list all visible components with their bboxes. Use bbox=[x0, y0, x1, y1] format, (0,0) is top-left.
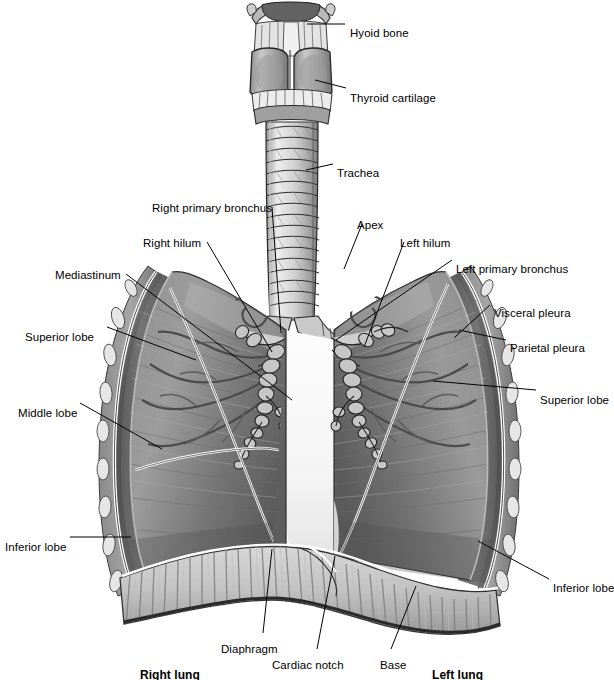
label-apex: Apex bbox=[357, 219, 383, 232]
label-inferior-lobe-right: Inferior lobe bbox=[5, 541, 66, 554]
label-superior-lobe-left: Superior lobe bbox=[540, 394, 609, 407]
label-diaphragm: Diaphragm bbox=[221, 643, 278, 656]
label-middle-lobe: Middle lobe bbox=[18, 407, 77, 420]
respiratory-system-figure: Hyoid boneThyroid cartilageTracheaRight … bbox=[0, 0, 614, 680]
label-left-hilum: Left hilum bbox=[400, 237, 450, 250]
label-mediastinum: Mediastinum bbox=[55, 269, 121, 282]
label-left-lung: Left lung bbox=[432, 669, 483, 680]
label-parietal-pleura: Parietal pleura bbox=[510, 342, 585, 355]
label-cardiac-notch: Cardiac notch bbox=[272, 659, 344, 672]
label-left-primary-bronchus: Left primary bronchus bbox=[456, 263, 568, 276]
label-superior-lobe-right: Superior lobe bbox=[25, 331, 94, 344]
label-trachea: Trachea bbox=[337, 167, 379, 180]
mediastinum-space bbox=[283, 330, 336, 574]
label-inferior-lobe-left: Inferior lobe bbox=[553, 582, 614, 595]
label-visceral-pleura: Visceral pleura bbox=[494, 307, 571, 320]
label-right-hilum: Right hilum bbox=[143, 237, 201, 250]
label-thyroid-cartilage: Thyroid cartilage bbox=[350, 92, 436, 105]
label-hyoid-bone: Hyoid bone bbox=[350, 27, 409, 40]
left-lung bbox=[331, 266, 521, 596]
label-right-primary-bronchus: Right primary bronchus bbox=[152, 202, 272, 215]
larynx-structure bbox=[247, 2, 335, 124]
label-right-lung: Right lung bbox=[140, 669, 200, 680]
trachea-structure bbox=[266, 122, 319, 320]
label-base: Base bbox=[380, 659, 406, 672]
